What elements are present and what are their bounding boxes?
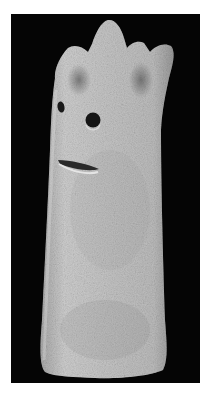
- right-eye-hole: [86, 113, 101, 128]
- stone-figure: [11, 14, 200, 383]
- photograph: Photograph of a pale grey porous stone c…: [11, 14, 200, 383]
